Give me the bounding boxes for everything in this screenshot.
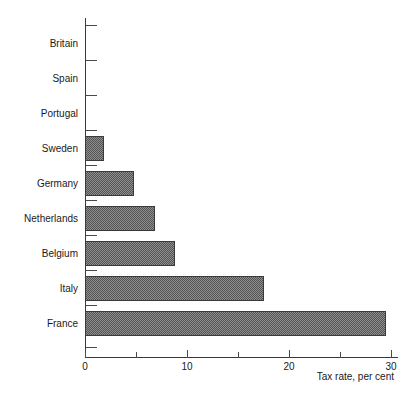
category-axis-tick [86,235,97,236]
x-axis-title: Tax rate, per cent [317,371,394,383]
value-axis-tick-20 [289,350,290,358]
category-axis-tick [86,95,97,96]
value-axis-tick-25 [340,352,341,358]
category-axis-tick [86,270,97,271]
figure-bar-chart-tax-rate: Britain Spain Portugal Sweden Germany Ne… [0,0,401,402]
category-axis-tick [86,347,97,348]
category-label-belgium: Belgium [0,248,78,260]
category-axis-tick [86,200,97,201]
category-label-italy: Italy [0,283,78,295]
category-label-britain: Britain [0,38,78,50]
value-axis-tick-30 [391,350,392,358]
value-axis-label-20: 20 [269,361,309,373]
category-label-germany: Germany [0,178,78,190]
category-label-portugal: Portugal [0,108,78,120]
category-axis-tick [86,130,97,131]
category-label-spain: Spain [0,73,78,85]
value-axis-tick-15 [238,352,239,358]
category-label-netherlands: Netherlands [0,213,78,225]
category-label-france: France [0,318,78,330]
category-label-sweden: Sweden [0,143,78,155]
bar-sweden [85,136,104,161]
bar-belgium [85,241,175,266]
bar-germany [85,171,134,196]
category-axis-tick [86,25,97,26]
category-axis-tick [86,60,97,61]
bar-france [85,311,386,336]
cropped-caption-sliver [14,394,344,400]
value-axis-tick-5 [136,352,137,358]
category-axis-tick [86,165,97,166]
value-axis-line [85,357,398,358]
category-axis-tick [86,305,97,306]
value-axis-label-0: 0 [65,361,105,373]
value-axis-tick-10 [187,350,188,358]
value-axis-tick-0 [85,350,86,358]
bar-italy [85,276,264,301]
bar-netherlands [85,206,155,231]
value-axis-label-10: 10 [167,361,207,373]
plot-area: Britain Spain Portugal Sweden Germany Ne… [0,0,401,402]
